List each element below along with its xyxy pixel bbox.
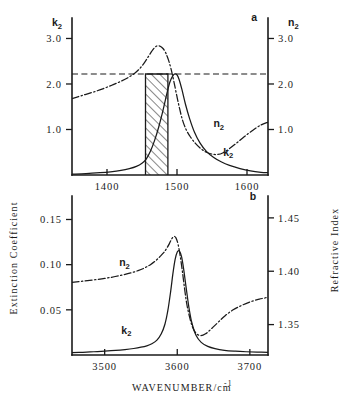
x-axis-title: WAVENUMBER/cm	[132, 382, 232, 393]
y2-tick-label: 1.40	[278, 266, 300, 277]
y2-tick-label: 3.0	[278, 33, 294, 44]
x-tick-label: 3600	[165, 361, 190, 372]
y2-tick-label: 1.0	[278, 124, 294, 135]
y-tick-label: 1.0	[46, 124, 62, 135]
x-tick-label: 3700	[238, 361, 263, 372]
right-axis-title: Refractive Index	[329, 208, 340, 293]
y2-tick-label: 2.0	[278, 79, 294, 90]
panel-label-a: a	[251, 11, 257, 23]
panel-a: 1400150016001.02.03.01.02.03.0 k2 n2 n2	[46, 11, 298, 192]
panel-b-curve-n2	[72, 236, 268, 335]
y2-tick-label: 1.45	[278, 213, 300, 224]
panel-a-y2-symbol: n2	[288, 16, 299, 31]
panel-a-curve-n2	[72, 46, 268, 155]
panel-a-y-symbol: k2	[52, 16, 62, 31]
y2-tick-label: 1.35	[278, 319, 300, 330]
panel-b: 3500360037000.050.100.151.351.401.45 n2k…	[40, 190, 300, 372]
panel-a-tick-labels: 1400150016001.02.03.01.02.03.0	[46, 33, 294, 192]
panel-label-b: b	[250, 190, 256, 202]
y-tick-label: 2.0	[46, 79, 62, 90]
x-tick-label: 1500	[165, 181, 190, 192]
curve-label-n2: n2	[213, 117, 224, 132]
panel-a-annotations: n2k2a	[213, 11, 257, 160]
scientific-figure: Extinction Coefficient Refractive Index …	[0, 0, 353, 409]
curve-label-k2: k2	[223, 146, 233, 161]
y-tick-label: 0.05	[40, 305, 62, 316]
panel-a-ticks	[66, 38, 274, 175]
panel-b-curve-k2	[72, 251, 268, 353]
curve-label-n2: n2	[119, 256, 130, 271]
left-axis-title: Extinction Coefficient	[8, 201, 19, 314]
panel-a-hatched-band	[146, 74, 168, 175]
x-tick-label: 3500	[92, 361, 117, 372]
panel-b-ticks	[66, 218, 274, 355]
figure-container: Extinction Coefficient Refractive Index …	[0, 0, 353, 409]
y-tick-label: 3.0	[46, 33, 62, 44]
curve-label-k2: k2	[121, 324, 131, 339]
y-tick-label: 0.10	[40, 259, 62, 270]
y-tick-label: 0.15	[40, 214, 62, 225]
panel-b-annotations: n2k2b	[119, 190, 256, 339]
x-axis-title-exponent: -1	[224, 379, 233, 388]
x-tick-label: 1400	[95, 181, 120, 192]
